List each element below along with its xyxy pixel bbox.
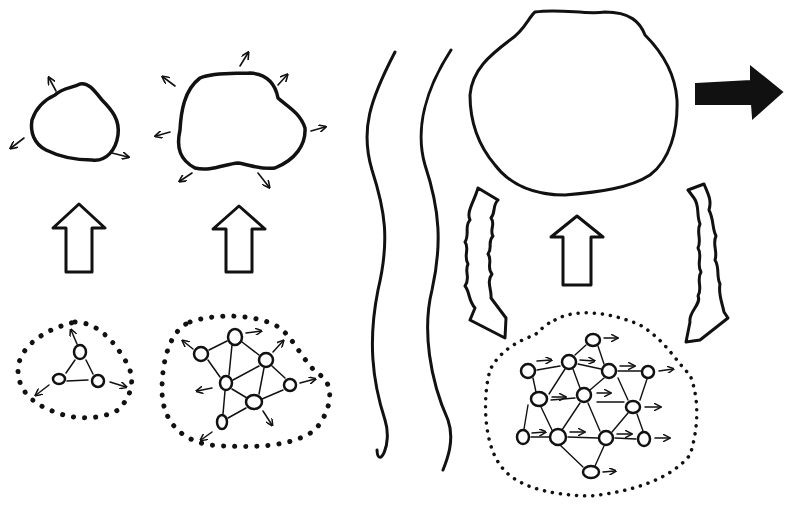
- stage3-micro-group: [486, 313, 697, 496]
- upward-hollow-arrow-icon: [53, 204, 105, 272]
- stage1-macro-blob: [11, 78, 128, 160]
- emergence-diagram: [0, 0, 795, 506]
- squiggly-feedback-arrow-icon: [465, 188, 506, 338]
- solid-right-arrow-icon: [696, 67, 782, 118]
- stage2-micro-group: [162, 316, 330, 446]
- upward-hollow-arrow-icon: [213, 206, 265, 272]
- stage2-macro-blob: [156, 53, 325, 187]
- stage1-micro-group: [18, 322, 132, 418]
- squiggly-feedback-arrow-icon: [686, 184, 728, 342]
- stage3-macro-blob: [470, 11, 677, 195]
- wavy-separator-icon: [367, 50, 451, 470]
- upward-hollow-arrow-icon: [551, 216, 603, 285]
